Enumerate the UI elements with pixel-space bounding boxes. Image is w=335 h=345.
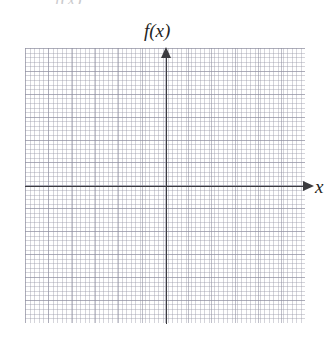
y-axis-arrow-icon (161, 47, 171, 58)
clipped-text-above-figure: f(x) (55, 0, 175, 4)
coordinate-grid-figure: f(x) f(x) x (0, 0, 335, 345)
x-axis-label: x (315, 176, 323, 198)
y-axis-line (166, 57, 167, 324)
y-axis-label: f(x) (144, 20, 170, 42)
x-axis-arrow-icon (303, 181, 314, 191)
